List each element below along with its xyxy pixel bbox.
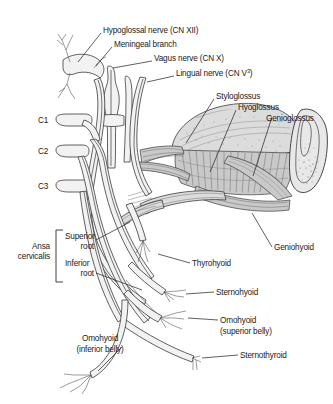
anatomical-figure: Hypoglossal nerve (CN XII) Meningeal bra… [0,0,333,404]
label-thyrohyoid: Thyrohyoid [192,259,232,268]
c1-root [56,114,100,142]
leader-geniohyoid [252,213,272,247]
label-superior-root-line1: Superior [65,232,95,241]
leader-sternothyroid [202,355,238,358]
label-c3: C3 [38,182,49,191]
label-omohyoid-superior-line2: (superior belly) [220,327,272,336]
label-ansa-line1: Ansa [32,242,51,251]
label-sternohyoid: Sternohyoid [216,288,259,297]
sternothyroid-branch [122,320,201,370]
leader-meningeal [96,47,112,66]
lingual-nerve-path [130,77,152,196]
label-genioglossus: Genioglossus [266,114,314,123]
label-hyoglossus: Hyoglossus [238,103,279,112]
label-omohyoid-inferior-line1: Omohyoid [82,334,119,343]
ansa-bracket [56,230,63,282]
label-styloglossus: Styloglossus [216,92,260,101]
label-inferior-root-line2: root [80,269,94,278]
label-lingual-nerve-main: Lingual nerve (CN V [176,69,248,78]
label-omohyoid-inferior-line2: (inferior belly) [76,345,124,354]
leader-thyrohyoid [158,254,190,263]
label-lingual-nerve: Lingual nerve (CN V3) [176,68,253,78]
label-c2: C2 [38,147,49,156]
leader-sternohyoid [186,292,214,294]
label-vagus-nerve: Vagus nerve (CN X) [154,54,224,63]
label-geniohyoid: Geniohyoid [274,243,315,252]
label-hypoglossal-nerve: Hypoglossal nerve (CN XII) [103,26,199,35]
diagram-canvas: Hypoglossal nerve (CN XII) Meningeal bra… [0,0,333,404]
label-ansa-line2: cervicalis [18,252,50,261]
label-inferior-root-line1: Inferior [65,259,90,268]
leader-vagus [113,61,152,68]
label-sternothyroid: Sternothyroid [240,351,287,360]
label-omohyoid-superior-line1: Omohyoid [220,316,257,325]
label-lingual-nerve-close: ) [250,69,253,78]
label-c1: C1 [38,116,49,125]
label-superior-root-line2: root [80,242,94,251]
c2-root [56,145,89,157]
label-meningeal-branch: Meningeal branch [114,40,177,49]
leader-omohyoid-superior [188,318,218,320]
leader-lingual [147,76,174,82]
